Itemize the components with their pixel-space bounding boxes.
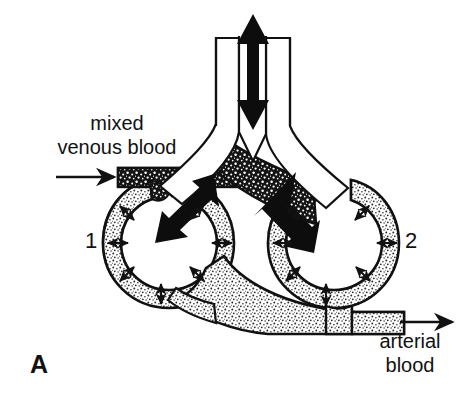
- label-alveolus-1: 1: [85, 228, 97, 254]
- label-mixed-venous-blood: mixed venous blood: [52, 112, 182, 159]
- panel-label: A: [30, 350, 49, 380]
- label-alveolus-2: 2: [405, 228, 417, 254]
- figure-panel-a: mixed venous blood arterial blood 1 2 A: [0, 0, 465, 397]
- label-arterial-blood: arterial blood: [358, 330, 462, 377]
